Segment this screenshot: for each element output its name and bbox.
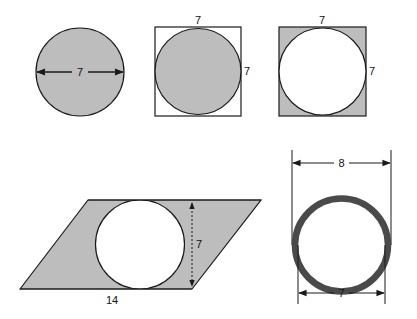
height-label: 7 [196, 238, 202, 250]
figure-parallelogram: 7 14 [20, 200, 261, 306]
outer-diameter-label: 8 [338, 157, 344, 169]
figure-ring: 8 7 [292, 150, 391, 304]
white-circle [96, 200, 185, 289]
right-side-label: 7 [369, 65, 375, 77]
inscribed-shaded-circle [155, 29, 241, 115]
figure-shaded-circle: 7 [36, 28, 124, 116]
base-label: 14 [106, 294, 118, 306]
inscribed-white-circle [279, 28, 366, 115]
inner-diameter-label: 7 [338, 287, 344, 299]
ring [295, 199, 388, 292]
diameter-label: 7 [77, 66, 83, 78]
geometry-figures: 7 7 7 7 7 7 14 8 7 [0, 0, 417, 319]
top-side-label: 7 [195, 14, 201, 26]
figure-square-shaded-corners: 7 7 [279, 14, 375, 116]
top-side-label: 7 [319, 14, 325, 26]
right-side-label: 7 [244, 65, 250, 77]
figure-square-shaded-circle: 7 7 [155, 14, 250, 116]
